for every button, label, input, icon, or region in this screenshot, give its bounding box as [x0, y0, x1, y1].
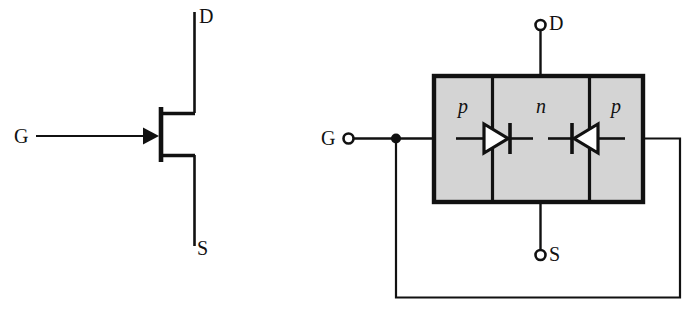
- jfet-structure-group: [344, 20, 681, 298]
- region-label-n-center: n: [536, 96, 546, 116]
- symbol-source-label: S: [197, 238, 208, 258]
- symbol-drain-label: D: [199, 6, 213, 26]
- figure-canvas: D S G D S G p n p: [0, 0, 699, 313]
- jfet-symbol-group: [36, 12, 195, 246]
- structure-drain-label: D: [549, 13, 563, 33]
- drain-terminal-circle: [536, 20, 546, 30]
- symbol-gate-label: G: [14, 126, 28, 146]
- structure-gate-label: G: [321, 128, 335, 148]
- structure-source-label: S: [549, 244, 560, 264]
- gate-terminal-circle: [344, 134, 354, 144]
- region-label-p-right: p: [611, 96, 621, 116]
- gate-arrow-icon: [143, 128, 159, 145]
- circuit-drawing: [0, 0, 699, 313]
- source-terminal-circle: [536, 250, 546, 260]
- region-label-p-left: p: [458, 96, 468, 116]
